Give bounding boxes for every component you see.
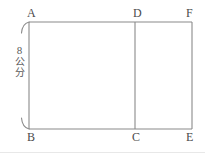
dimension-unit-char-1: 公 — [12, 56, 27, 67]
vertex-label-E: E — [186, 131, 193, 143]
dimension-unit-char-2: 分 — [12, 67, 27, 78]
dimension-value: 8 — [12, 44, 27, 56]
vertex-label-B: B — [27, 131, 35, 143]
dimension-brace-top-hook — [22, 22, 30, 33]
vertex-label-F: F — [186, 7, 193, 19]
vertex-label-A: A — [27, 7, 36, 19]
footer-separator-rule — [0, 152, 205, 153]
vertex-label-D: D — [133, 7, 142, 19]
dimension-label-height: 8 公 分 — [12, 44, 27, 78]
geometry-figure: A D F B C E 8 公 分 — [0, 0, 205, 159]
dimension-brace-bottom-hook — [22, 118, 30, 129]
vertex-label-C: C — [132, 131, 140, 143]
